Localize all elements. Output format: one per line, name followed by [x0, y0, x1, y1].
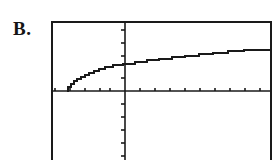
plot-curve — [68, 50, 270, 91]
item-label: B. — [13, 19, 31, 39]
plot-area — [51, 21, 272, 160]
calculator-graph-figure: B. — [0, 0, 280, 160]
calculator-screen — [51, 21, 272, 160]
x-axis-group — [53, 88, 270, 91]
